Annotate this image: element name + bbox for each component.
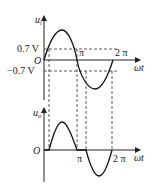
bottom-two-pi-label: 2 π — [113, 153, 126, 164]
bottom-y-label: uo — [33, 107, 41, 119]
projection-lines — [49, 49, 112, 150]
lower-threshold-label: −0.7 V — [7, 65, 35, 76]
top-x-label: ωt — [134, 62, 144, 73]
top-pi-label: π — [79, 47, 84, 58]
top-y-label: ui — [35, 14, 42, 26]
bottom-graph: uo O π 2 π ωt — [33, 107, 144, 182]
waveform-diagram: ui 0.7 V O −0.7 V π 2 π ωt uo O π 2 π ωt — [0, 0, 154, 192]
top-origin-label: O — [34, 55, 41, 66]
top-two-pi-label: 2 π — [115, 47, 128, 58]
upper-threshold-label: 0.7 V — [17, 43, 40, 54]
bottom-pi-label: π — [77, 153, 82, 164]
output-wave — [44, 122, 112, 176]
top-graph: ui 0.7 V O −0.7 V π 2 π ωt — [7, 14, 144, 100]
bottom-x-label: ωt — [134, 152, 144, 163]
bottom-origin-label: O — [33, 145, 40, 156]
